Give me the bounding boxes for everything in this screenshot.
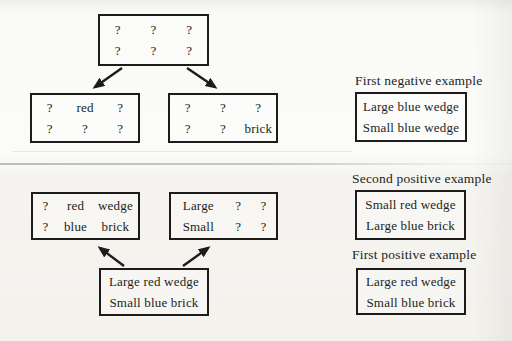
description-line: Small blue brick <box>358 292 464 313</box>
description-line: Large blue brick <box>357 215 464 236</box>
slot: ? <box>32 100 67 116</box>
arrow-source-to-left <box>100 248 124 266</box>
slot: ? <box>170 100 205 116</box>
slot: ? <box>103 121 138 137</box>
generalization-box-colors: ? red wedge ? blue brick <box>31 192 140 240</box>
slot: ? <box>33 198 58 214</box>
slot: brick <box>241 121 276 137</box>
slot: ? <box>100 22 136 38</box>
source-description-box: Large red wedge Small blue brick <box>99 268 209 316</box>
slot-row: ? red wedge <box>33 195 138 216</box>
slot-row: ? ? ? <box>170 97 276 118</box>
slot: ? <box>251 198 276 214</box>
slot: ? <box>67 121 102 137</box>
scanned-diagram-page: ? ? ? ? ? ? ? red ? ? ? ? ? ? ? ? ? <box>0 0 512 341</box>
slot: red <box>58 198 93 214</box>
example-label-second-positive: Second positive example <box>352 171 492 187</box>
slot: brick <box>93 219 138 235</box>
slot: wedge <box>93 198 138 214</box>
slot: ? <box>251 219 276 235</box>
example-box-second-positive: Small red wedge Large blue brick <box>355 190 466 240</box>
slot: ? <box>103 100 138 116</box>
description-line: Small blue brick <box>101 292 207 313</box>
description-line: Small red wedge <box>357 194 464 215</box>
slot: red <box>67 100 102 116</box>
arrow-root-to-right <box>187 68 215 87</box>
specialization-box-red: ? red ? ? ? ? <box>30 93 140 143</box>
slot-row: ? ? ? <box>100 19 207 40</box>
slot: ? <box>241 100 276 116</box>
slot: ? <box>205 100 240 116</box>
slot: Small <box>171 219 226 235</box>
slot: ? <box>226 198 251 214</box>
slot-row: Small ? ? <box>171 216 276 237</box>
slot-row: ? ? brick <box>170 118 276 139</box>
generalization-box-sizes: Large ? ? Small ? ? <box>169 192 278 240</box>
description-line: Large red wedge <box>358 271 464 292</box>
slot: ? <box>100 43 136 59</box>
slot: blue <box>58 219 93 235</box>
description-line: Small blue wedge <box>357 117 465 138</box>
slot: ? <box>136 43 172 59</box>
slot: ? <box>171 22 207 38</box>
slot-row: ? blue brick <box>33 216 138 237</box>
arrow-source-to-right <box>183 248 208 266</box>
example-box-first-negative: Large blue wedge Small blue wedge <box>355 92 467 142</box>
description-line: Large blue wedge <box>357 96 465 117</box>
slot-row: Large ? ? <box>171 195 276 216</box>
slot: ? <box>32 121 67 137</box>
slot: Large <box>171 198 226 214</box>
slot: ? <box>136 22 172 38</box>
example-label-first-negative: First negative example <box>355 73 482 89</box>
slot: ? <box>226 219 251 235</box>
arrow-root-to-left <box>95 68 122 87</box>
description-line: Large red wedge <box>101 271 207 292</box>
slot: ? <box>33 219 58 235</box>
specialization-box-brick: ? ? ? ? ? brick <box>168 93 278 143</box>
slot: ? <box>171 43 207 59</box>
slot-row: ? ? ? <box>100 40 207 61</box>
example-label-first-positive: First positive example <box>352 247 476 263</box>
root-hypothesis-box: ? ? ? ? ? ? <box>98 14 209 66</box>
slot: ? <box>205 121 240 137</box>
example-box-first-positive: Large red wedge Small blue brick <box>356 268 466 315</box>
slot-row: ? ? ? <box>32 118 138 139</box>
slot-row: ? red ? <box>32 97 138 118</box>
slot: ? <box>170 121 205 137</box>
